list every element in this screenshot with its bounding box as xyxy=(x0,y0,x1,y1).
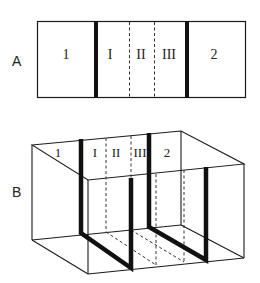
panel-b-label: B xyxy=(12,184,21,200)
panel-a-region-2: 2 xyxy=(211,47,218,62)
panel-b-region-2: 2 xyxy=(164,145,171,160)
panel-a-label: A xyxy=(12,53,22,69)
panel-a-partition-right xyxy=(185,21,189,98)
panel-a-region-II: II xyxy=(136,47,146,62)
panel-a-region-I: I xyxy=(108,47,113,62)
panel-b-region-I: I xyxy=(93,145,97,160)
panel-b-region-1: 1 xyxy=(55,145,62,160)
panel-a-partition-left xyxy=(94,21,98,98)
panel-a-region-III: III xyxy=(162,47,176,62)
partition-right xyxy=(149,133,206,260)
panel-a-region-1: 1 xyxy=(63,47,70,62)
panel-b-region-II: II xyxy=(112,145,121,160)
panel-b: B xyxy=(12,131,244,274)
panel-a: A 1 I II III 2 xyxy=(12,21,246,98)
panel-b-region-III: III xyxy=(134,145,147,160)
diagram-canvas: A 1 I II III 2 B xyxy=(0,0,260,283)
